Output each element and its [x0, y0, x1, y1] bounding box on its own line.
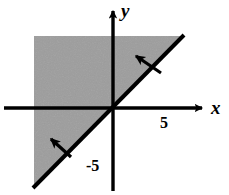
x-axis-label: x: [211, 98, 221, 117]
x-tick-label-5: 5: [160, 115, 168, 131]
graph-canvas: [0, 0, 229, 195]
inequality-graph-figure: x y 5 -5: [0, 0, 229, 195]
y-tick-label-neg5: -5: [86, 158, 99, 174]
y-axis-label: y: [121, 1, 129, 20]
